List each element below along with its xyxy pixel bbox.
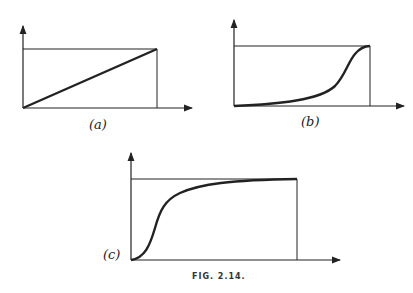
curve-a bbox=[23, 49, 157, 108]
panel-c bbox=[131, 153, 340, 260]
panel-b-label: (b) bbox=[301, 114, 319, 129]
panel-a bbox=[23, 26, 192, 108]
curve-c bbox=[131, 179, 297, 260]
curve-b bbox=[234, 46, 370, 106]
panel-a-label: (a) bbox=[89, 117, 107, 132]
panel-b bbox=[234, 20, 404, 106]
panel-c-label: (c) bbox=[103, 247, 120, 262]
figure-caption: FIG. 2.14. bbox=[192, 272, 246, 281]
figure-canvas bbox=[0, 0, 413, 293]
